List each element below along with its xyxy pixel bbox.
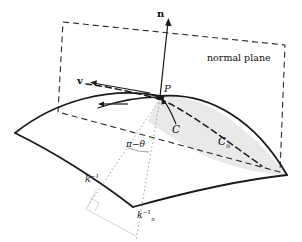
surface-edge-bottom-left — [15, 133, 133, 207]
projection-segment — [86, 209, 136, 236]
normal-curvature-diagram: n v P normal plane C Cn π−θ k−1 k−1n — [0, 0, 302, 242]
curve-cn-base: C — [218, 135, 226, 147]
tangent-vector-label: v — [77, 76, 83, 86]
curve-c-tangent-arrowhead — [98, 102, 104, 107]
surface-edge-bottom-right — [133, 175, 287, 207]
radius-k-superscript: −1 — [91, 173, 99, 179]
radius-kn-label: k−1n — [137, 210, 155, 223]
radius-k-label: k−1 — [85, 174, 99, 184]
curve-c-solid — [98, 97, 160, 108]
normal-vector-label: n — [157, 9, 164, 19]
tangent-vector-v-stem — [93, 83, 150, 93]
point-label: P — [164, 84, 171, 94]
normal-vector-n-arrowhead — [165, 18, 171, 26]
curve-cn-subscript: n — [226, 142, 230, 149]
radius-kn-subscript: n — [151, 216, 155, 222]
angle-label: π−θ — [126, 140, 145, 149]
curve-c-label: C — [172, 124, 180, 135]
normal-plane-label: normal plane — [207, 53, 271, 63]
radius-line-k — [86, 99, 160, 209]
radius-kn-superscript: −1 — [143, 209, 151, 215]
curve-cn-label: Cn — [218, 136, 230, 149]
diagram-canvas — [0, 0, 302, 242]
